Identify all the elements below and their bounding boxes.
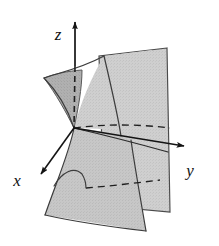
y-axis-label: y	[184, 161, 194, 180]
lower-saddle-sheet	[45, 128, 146, 231]
z-axis-label: z	[54, 25, 62, 44]
surface-figure-svg: z x y	[0, 0, 219, 246]
x-axis-label: x	[12, 171, 21, 190]
figure-container: z x y	[0, 0, 219, 246]
left-wing-shadow	[44, 70, 82, 128]
